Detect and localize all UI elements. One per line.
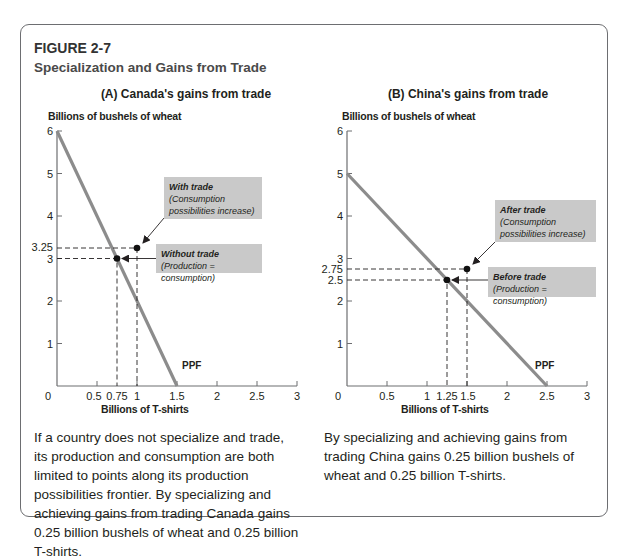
svg-text:2: 2 [47,295,53,307]
svg-text:4: 4 [47,210,53,222]
svg-text:2.5: 2.5 [328,274,343,286]
svg-text:3: 3 [584,390,590,402]
panel-a-y-ticks: 654 3.253 21 [32,125,53,350]
panel-b-arrow-after-trade [473,242,495,264]
svg-text:1.25: 1.25 [436,390,457,402]
svg-text:2: 2 [504,390,510,402]
panel-b-point-after-trade [464,266,471,273]
panel-b-x-ticks: 00.51 1.251.52 2.53 [335,390,590,402]
svg-text:1: 1 [424,390,430,402]
svg-text:0.5: 0.5 [379,390,394,402]
panel-a-arrow-with-trade [143,218,164,243]
note-body: (Consumption possibilities increase) [169,194,255,216]
panel-a-point-with-trade [134,245,141,252]
panel-a-point-without-trade [114,255,121,262]
panel-b-chart: 654 32.752.5 21 00.51 1.251.52 2.53 PPF [322,125,590,402]
panel-b-y-ticks: 654 32.752.5 21 [322,125,343,350]
svg-text:5: 5 [47,168,53,180]
svg-text:0: 0 [335,390,341,402]
svg-text:2.5: 2.5 [539,390,554,402]
svg-text:5: 5 [337,168,343,180]
panel-a-x-ticks: 00.50.75 11.52 2.53 [45,390,300,402]
panel-a-ppf-label: PPF [182,360,201,371]
note-heading: Without trade [161,249,219,259]
svg-text:2: 2 [337,295,343,307]
svg-text:2.5: 2.5 [249,390,264,402]
svg-text:0.5: 0.5 [86,390,101,402]
svg-text:1: 1 [47,338,53,350]
svg-text:1: 1 [337,338,343,350]
svg-text:4: 4 [337,210,343,222]
svg-text:6: 6 [47,125,53,137]
note-heading: Before trade [493,272,546,282]
note-body: (Production = consumption) [493,284,547,306]
note-heading: With trade [169,182,213,192]
svg-text:3: 3 [294,390,300,402]
svg-text:3.25: 3.25 [32,241,53,253]
panel-b-ppf-label: PPF [535,360,554,371]
note-heading: After trade [500,205,546,215]
svg-text:0: 0 [45,390,51,402]
svg-text:1.5: 1.5 [460,390,475,402]
panel-a-note-with-trade: With trade (Consumption possibilities in… [164,177,262,219]
panel-b-point-before-trade [444,277,451,284]
svg-text:1: 1 [134,390,140,402]
svg-text:3: 3 [47,253,53,265]
panel-a-caption: If a country does not specialize and tra… [34,428,299,560]
note-body: (Production = consumption) [161,261,215,283]
svg-text:2: 2 [214,390,220,402]
panel-b-note-after-trade: After trade (Consumption possibilities i… [495,200,596,242]
svg-text:0.75: 0.75 [106,390,127,402]
panel-b-caption: By specializing and achieving gains from… [324,428,584,485]
panel-b-note-before-trade: Before trade (Production = consumption) [488,267,596,297]
svg-text:1.5: 1.5 [169,390,184,402]
panel-a-note-without-trade: Without trade (Production = consumption) [156,244,262,273]
svg-text:6: 6 [337,125,343,137]
note-body: (Consumption possibilities increase) [500,217,586,239]
